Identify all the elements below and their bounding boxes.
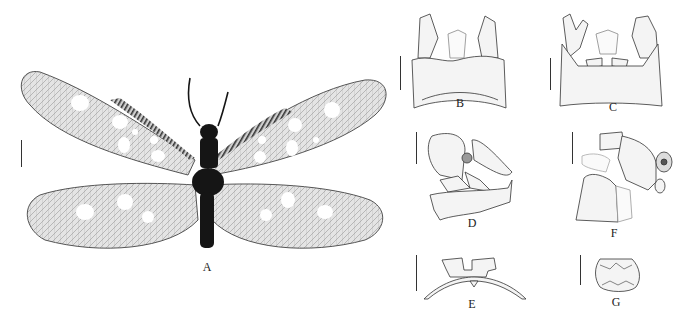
head	[200, 124, 218, 140]
panel-label-d: D	[462, 216, 482, 231]
panel-b-drawing: B	[400, 8, 520, 118]
panel-c-drawing: C	[548, 8, 678, 118]
panel-a-specimen-photo: A	[0, 60, 400, 280]
panel-g-drawing: G	[570, 255, 680, 315]
antenna-right	[218, 92, 228, 126]
panel-label-g: G	[606, 295, 626, 310]
hindwing-left	[27, 183, 198, 248]
antenna-left	[188, 78, 200, 126]
specimen-illustration	[0, 60, 400, 280]
forewing-left	[21, 72, 195, 175]
panel-label-b: B	[450, 96, 470, 111]
panel-d-drawing: D	[410, 130, 540, 245]
panel-e-drawing: E	[410, 255, 540, 315]
panel-label-f: F	[604, 226, 624, 241]
thorax	[192, 168, 224, 196]
prothorax	[200, 138, 218, 168]
panel-f-drawing: F	[560, 130, 680, 245]
panel-label-c: C	[603, 100, 623, 115]
panel-label-e: E	[462, 297, 482, 312]
panel-label-a: A	[197, 260, 217, 275]
hindwing-right	[210, 184, 383, 248]
abdomen	[200, 192, 214, 248]
